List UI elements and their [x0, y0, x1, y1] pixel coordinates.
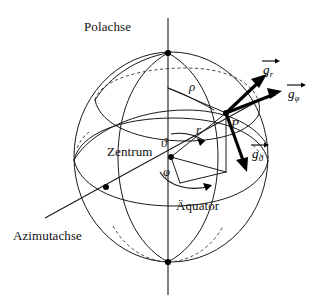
g-phi-base: g — [288, 86, 295, 101]
spherical-coordinates-figure: Polachse Azimutachse Äquator Zentrum P ρ… — [0, 0, 320, 307]
latitude-circle-right-edge — [258, 100, 260, 116]
center-dot — [168, 154, 174, 160]
g-r-base: g — [263, 62, 270, 77]
center-label: Zentrum — [107, 145, 152, 158]
g-theta-subscript: ϑ — [259, 153, 263, 163]
theta-label: ϑ — [161, 137, 167, 150]
r-label: r — [196, 123, 201, 136]
point-p-label: P — [231, 117, 239, 130]
point-p-dot — [223, 110, 229, 116]
north-pole-dot — [165, 50, 171, 56]
g-phi-subscript: φ — [295, 93, 300, 103]
g-r-subscript: r — [270, 69, 273, 79]
vector-g-theta-head — [236, 157, 248, 172]
polar-axis-label: Polachse — [84, 20, 131, 33]
azimuth-axis-label: Azimutachse — [13, 229, 82, 242]
latitude-circle-back — [95, 68, 258, 100]
south-pole-dot — [165, 259, 171, 265]
rho-label: ρ — [189, 80, 195, 93]
projection-edge-b — [180, 172, 226, 183]
vector-g-phi-label: gφ — [288, 87, 299, 100]
projection-edge-a — [171, 157, 180, 183]
vector-g-r-label: gr — [263, 63, 273, 76]
g-theta-base: g — [252, 146, 259, 161]
equator-label: Äquator — [176, 199, 219, 212]
diagram-canvas — [0, 0, 320, 307]
g-phi-overbar-head — [301, 83, 306, 88]
g-r-overbar-head — [275, 59, 280, 64]
phi-label: φ — [163, 166, 170, 179]
g-theta-overbar-head — [264, 143, 269, 148]
azimuth-axis-dot — [103, 184, 109, 190]
vector-g-theta-label: gϑ — [252, 147, 263, 160]
